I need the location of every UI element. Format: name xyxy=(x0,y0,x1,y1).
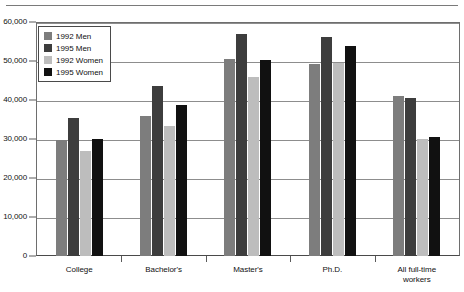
bar xyxy=(140,116,151,256)
bar xyxy=(164,126,175,256)
legend-swatch-icon xyxy=(44,32,52,40)
y-axis-label: 30,000 xyxy=(3,135,27,143)
bar xyxy=(321,37,332,256)
bar xyxy=(417,139,428,256)
x-axis-tick xyxy=(375,256,376,262)
y-axis-tick xyxy=(29,256,36,257)
bar-group xyxy=(206,22,290,256)
legend-label: 1992 Men xyxy=(56,32,91,41)
bar xyxy=(345,46,356,256)
y-axis-tick xyxy=(29,139,36,140)
x-axis-tick xyxy=(121,256,122,262)
bar xyxy=(429,137,440,256)
x-axis-label: Master's xyxy=(233,265,263,275)
bar-group xyxy=(375,22,459,256)
legend-swatch-icon xyxy=(44,68,52,76)
chart-page: 010,00020,00030,00040,00050,00060,000 Co… xyxy=(0,0,464,292)
y-axis-tick xyxy=(29,22,36,23)
legend-label: 1995 Men xyxy=(56,44,91,53)
bar xyxy=(224,59,235,256)
x-axis-tick xyxy=(290,256,291,262)
y-axis-label: 50,000 xyxy=(3,57,27,65)
legend-item: 1995 Women xyxy=(44,67,103,77)
y-axis-label: 60,000 xyxy=(3,18,27,26)
bar xyxy=(56,140,67,256)
legend-item: 1992 Women xyxy=(44,55,103,65)
y-axis-label: 20,000 xyxy=(3,174,27,182)
legend-label: 1995 Women xyxy=(56,68,103,77)
legend-swatch-icon xyxy=(44,56,52,64)
bar xyxy=(393,96,404,256)
y-axis-label: 40,000 xyxy=(3,96,27,104)
bar xyxy=(92,139,103,256)
legend-swatch-icon xyxy=(44,44,52,52)
x-axis-label: Ph.D. xyxy=(323,265,343,275)
x-axis-label: College xyxy=(66,265,93,275)
bar xyxy=(309,64,320,256)
bar xyxy=(80,151,91,256)
legend-item: 1992 Men xyxy=(44,31,103,41)
legend-label: 1992 Women xyxy=(56,56,103,65)
bar xyxy=(333,63,344,256)
y-axis-tick xyxy=(29,217,36,218)
bar xyxy=(152,86,163,256)
bar xyxy=(405,98,416,256)
y-axis-tick xyxy=(29,61,36,62)
y-axis-tick xyxy=(29,178,36,179)
page-top-rule xyxy=(6,5,458,6)
x-axis-tick xyxy=(206,256,207,262)
legend-item: 1995 Men xyxy=(44,43,103,53)
bar xyxy=(248,77,259,256)
x-axis-label: All full-time workers xyxy=(398,265,436,284)
bar-group xyxy=(290,22,374,256)
chart-legend: 1992 Men1995 Men1992 Women1995 Women xyxy=(38,26,111,82)
bar xyxy=(260,60,271,256)
bar xyxy=(236,34,247,256)
y-axis-tick xyxy=(29,100,36,101)
y-axis: 010,00020,00030,00040,00050,00060,000 xyxy=(0,22,36,256)
y-axis-label: 0 xyxy=(23,252,27,260)
x-axis: CollegeBachelor'sMaster'sPh.D.All full-t… xyxy=(36,256,460,292)
bar-group xyxy=(121,22,205,256)
bar xyxy=(176,105,187,256)
y-axis-label: 10,000 xyxy=(3,213,27,221)
x-axis-label: Bachelor's xyxy=(145,265,182,275)
bar xyxy=(68,118,79,256)
